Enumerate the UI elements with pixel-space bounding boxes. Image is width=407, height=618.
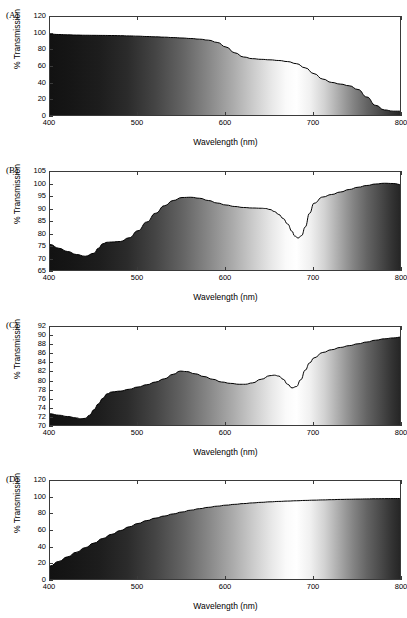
x-tick-label: 500: [131, 119, 144, 127]
y-tick-label: 120: [33, 12, 46, 20]
x-tick-mark-top: [401, 326, 402, 330]
plot-area: [49, 171, 401, 271]
spectrum-curve-svg: [50, 481, 401, 580]
y-tick-label: 84: [38, 359, 46, 367]
spectrum-fill: [50, 183, 401, 271]
y-tick-label: 0: [42, 576, 46, 584]
x-axis-label: Wavelength (nm): [48, 447, 403, 457]
x-tick-label: 600: [219, 583, 232, 591]
y-axis-label: % Transmission: [12, 0, 22, 87]
x-tick-mark-top: [401, 171, 402, 175]
x-tick-label: 600: [219, 274, 232, 282]
x-tick-mark-top: [401, 480, 402, 484]
y-tick-label: 78: [38, 386, 46, 394]
y-tick-label: 80: [38, 230, 46, 238]
chart-panel-d: (D)% TransmissionWavelength (nm)02040608…: [0, 464, 407, 618]
y-tick-label: 100: [33, 29, 46, 37]
y-tick-label: 60: [38, 526, 46, 534]
x-axis-label: Wavelength (nm): [48, 601, 403, 611]
plot-area: [49, 326, 401, 426]
y-tick-label: 74: [38, 404, 46, 412]
y-tick-label: 75: [38, 242, 46, 250]
y-tick-label: 90: [38, 205, 46, 213]
y-tick-label: 70: [38, 422, 46, 430]
x-tick-label: 400: [43, 274, 56, 282]
x-tick-mark-bottom: [401, 576, 402, 580]
y-tick-label: 60: [38, 62, 46, 70]
y-tick-mark: [49, 580, 53, 581]
spectrum-curve-svg: [50, 327, 401, 426]
x-tick-label: 800: [395, 274, 407, 282]
spectrum-fill: [50, 499, 401, 581]
y-tick-mark: [49, 426, 53, 427]
x-tick-label: 600: [219, 119, 232, 127]
x-tick-label: 800: [395, 119, 407, 127]
y-tick-label: 72: [38, 413, 46, 421]
x-tick-label: 500: [131, 429, 144, 437]
chart-panel-c: (C)% TransmissionWavelength (nm)70727476…: [0, 310, 407, 464]
x-tick-mark-bottom: [401, 112, 402, 116]
y-tick-label: 40: [38, 543, 46, 551]
x-tick-label: 700: [307, 583, 320, 591]
x-tick-label: 700: [307, 274, 320, 282]
spectrum-curve-svg: [50, 172, 401, 271]
y-tick-mark: [49, 271, 53, 272]
x-tick-label: 500: [131, 583, 144, 591]
y-tick-label: 80: [38, 510, 46, 518]
x-tick-mark-bottom: [401, 422, 402, 426]
y-tick-label: 90: [38, 331, 46, 339]
y-tick-label: 85: [38, 217, 46, 225]
y-tick-label: 20: [38, 560, 46, 568]
spectrum-fill: [50, 34, 401, 116]
y-tick-label: 70: [38, 255, 46, 263]
spectrum-curve-svg: [50, 17, 401, 116]
plot-area: [49, 16, 401, 116]
y-tick-label: 80: [38, 377, 46, 385]
x-axis-label: Wavelength (nm): [48, 137, 403, 147]
x-tick-label: 600: [219, 429, 232, 437]
y-axis-label: % Transmission: [12, 146, 22, 242]
y-tick-label: 80: [38, 46, 46, 54]
x-tick-label: 500: [131, 274, 144, 282]
y-tick-label: 100: [33, 180, 46, 188]
y-tick-label: 100: [33, 493, 46, 501]
y-tick-label: 120: [33, 476, 46, 484]
y-tick-label: 92: [38, 322, 46, 330]
figure-container: (A)% TransmissionWavelength (nm)02040608…: [0, 0, 407, 618]
y-tick-mark: [49, 116, 53, 117]
spectrum-fill: [50, 337, 401, 426]
y-axis-label: % Transmission: [12, 301, 22, 397]
x-tick-label: 800: [395, 583, 407, 591]
y-tick-label: 86: [38, 350, 46, 358]
y-tick-label: 105: [33, 167, 46, 175]
x-tick-mark-bottom: [401, 267, 402, 271]
x-tick-label: 800: [395, 429, 407, 437]
x-axis-label: Wavelength (nm): [48, 292, 403, 302]
y-axis-label: % Transmission: [12, 455, 22, 551]
y-tick-label: 20: [38, 96, 46, 104]
x-tick-label: 700: [307, 119, 320, 127]
y-tick-label: 65: [38, 267, 46, 275]
x-tick-label: 400: [43, 119, 56, 127]
y-tick-label: 76: [38, 395, 46, 403]
chart-panel-b: (B)% TransmissionWavelength (nm)65707580…: [0, 155, 407, 309]
x-tick-label: 400: [43, 583, 56, 591]
x-tick-label: 700: [307, 429, 320, 437]
y-tick-label: 82: [38, 368, 46, 376]
chart-panel-a: (A)% TransmissionWavelength (nm)02040608…: [0, 0, 407, 154]
y-tick-label: 40: [38, 79, 46, 87]
plot-area: [49, 480, 401, 580]
x-tick-mark-top: [401, 16, 402, 20]
y-tick-label: 88: [38, 340, 46, 348]
y-tick-label: 95: [38, 192, 46, 200]
x-tick-label: 400: [43, 429, 56, 437]
y-tick-label: 0: [42, 112, 46, 120]
